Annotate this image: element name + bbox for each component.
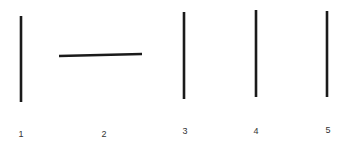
label-5: 5 xyxy=(325,125,330,135)
label-3: 3 xyxy=(182,126,187,136)
line-figure: 1 2 3 4 5 xyxy=(0,0,343,146)
figure-item-4: 4 xyxy=(253,10,258,136)
figure-item-5: 5 xyxy=(325,11,330,135)
figure-item-2: 2 xyxy=(59,54,142,139)
line-2 xyxy=(59,54,142,56)
label-2: 2 xyxy=(101,129,106,139)
figure-item-1: 1 xyxy=(18,16,23,139)
figure-item-3: 3 xyxy=(182,12,187,136)
label-1: 1 xyxy=(18,129,23,139)
label-4: 4 xyxy=(253,126,258,136)
